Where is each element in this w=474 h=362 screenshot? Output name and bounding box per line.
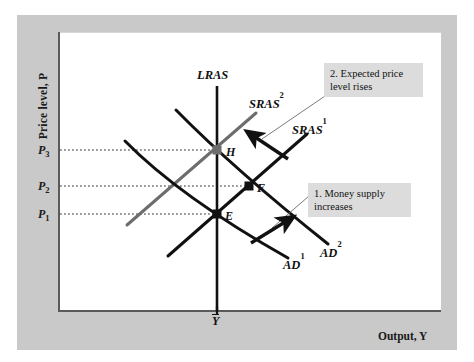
point-label-e: E xyxy=(225,209,233,224)
sras2-label: SRAS2 xyxy=(249,95,284,112)
point-label-h: H xyxy=(226,145,235,160)
price-guide-lines xyxy=(60,150,249,214)
figure-root: Price level, P Output, Y P3 P2 P1 Y LRAS… xyxy=(0,0,474,362)
annotation-money-supply: 1. Money supply increases xyxy=(308,183,411,217)
annotation-expected-price-level: 2. Expected price level rises xyxy=(324,63,423,97)
y-tick-p1: P1 xyxy=(38,207,50,223)
ad-shift-arrow xyxy=(251,222,285,243)
y-tick-p2: P2 xyxy=(38,179,50,195)
y-potential-label: Y xyxy=(212,314,219,329)
graph-svg xyxy=(0,0,474,362)
sras-shift-arrow xyxy=(255,137,288,159)
ad1-label: AD1 xyxy=(283,256,305,273)
ad2-label: AD2 xyxy=(320,244,342,261)
y-tick-p3: P3 xyxy=(38,143,50,159)
ad1-curve xyxy=(125,141,288,258)
lras-label: LRAS xyxy=(197,68,228,83)
x-axis-label: Output, Y xyxy=(378,330,427,342)
sras1-label: SRAS1 xyxy=(292,121,327,138)
point-label-f: F xyxy=(257,181,265,196)
